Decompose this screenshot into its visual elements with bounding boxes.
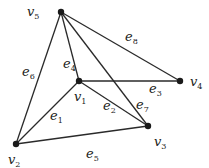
vertex-label-v2: v2 [8,152,20,168]
vertex-label-v1: v1 [74,89,86,106]
edge-label-e6: e6 [22,64,35,81]
vertex-v2 [13,141,19,147]
vertex-v3 [145,123,151,129]
edge-label-e1: e1 [50,108,63,125]
vertex-v5 [58,9,64,15]
edge-label-e3: e3 [149,81,162,98]
edges [16,12,180,144]
graph-diagram: e6e4e8e7e3e2e1e5v5v1v4v3v2 [0,0,209,168]
vertex-label-v4: v4 [190,74,202,91]
edge-label-e5: e5 [86,146,99,163]
vertex-v1 [76,78,82,84]
edge-e5 [16,126,148,144]
edge-e8 [61,12,180,81]
edge-label-e7: e7 [136,97,149,114]
labels: e6e4e8e7e3e2e1e5v5v1v4v3v2 [8,4,202,168]
edge-label-e8: e8 [125,29,138,46]
vertex-v4 [177,78,183,84]
edge-label-e2: e2 [103,98,116,115]
edge-e1 [16,81,79,144]
vertex-label-v3: v3 [154,134,166,151]
vertex-label-v5: v5 [27,4,39,21]
edge-label-e4: e4 [63,56,76,73]
